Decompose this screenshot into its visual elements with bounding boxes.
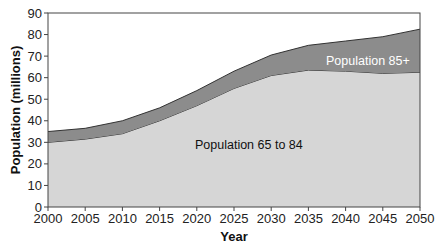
x-tick-label: 2020: [182, 211, 211, 226]
y-axis-label: Population (millions): [8, 46, 23, 175]
x-tick-label: 2040: [331, 211, 360, 226]
chart-canvas: 0102030405060708090200020052010201520202…: [0, 0, 438, 247]
series-annotation-1: Population 85+: [326, 54, 410, 68]
y-tick-label: 30: [28, 135, 42, 150]
x-tick-label: 2005: [71, 211, 100, 226]
x-tick-label: 2035: [294, 211, 323, 226]
x-tick-label: 2000: [34, 211, 63, 226]
series-annotation-0: Population 65 to 84: [195, 138, 303, 152]
y-tick-label: 60: [28, 70, 42, 85]
y-tick-label: 50: [28, 92, 42, 107]
x-axis-label: Year: [220, 229, 247, 244]
x-tick-label: 2050: [406, 211, 435, 226]
y-tick-label: 10: [28, 178, 42, 193]
y-tick-label: 90: [28, 6, 42, 21]
x-tick-label: 2025: [220, 211, 249, 226]
y-tick-label: 20: [28, 156, 42, 171]
y-tick-label: 70: [28, 49, 42, 64]
x-tick-label: 2010: [108, 211, 137, 226]
population-area-chart: 0102030405060708090200020052010201520202…: [0, 0, 438, 247]
x-tick-label: 2030: [257, 211, 286, 226]
y-tick-label: 40: [28, 113, 42, 128]
y-tick-label: 80: [28, 27, 42, 42]
x-tick-label: 2045: [368, 211, 397, 226]
x-tick-label: 2015: [145, 211, 174, 226]
